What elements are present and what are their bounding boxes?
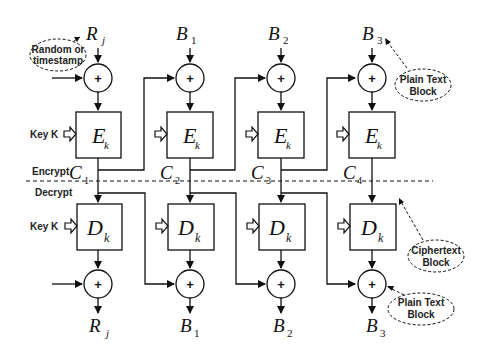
input-label: B bbox=[268, 23, 280, 44]
bottom-outputs: R j B 1 B 2 B 3 bbox=[88, 315, 386, 339]
svg-text:C: C bbox=[160, 162, 173, 183]
xor-icon: + bbox=[277, 71, 285, 86]
input-label: B bbox=[176, 23, 188, 44]
decrypt-block-label: D bbox=[86, 215, 103, 240]
svg-text:2: 2 bbox=[283, 34, 289, 46]
svg-text:2: 2 bbox=[287, 327, 293, 339]
output-label: B bbox=[180, 315, 192, 336]
svg-text:k: k bbox=[195, 231, 201, 245]
xor-icon: + bbox=[368, 277, 376, 292]
svg-text:k: k bbox=[378, 231, 384, 245]
svg-text:3: 3 bbox=[380, 327, 386, 339]
xor-icon: + bbox=[186, 71, 194, 86]
key-label: Key K bbox=[30, 129, 59, 140]
key-arrow-icon bbox=[247, 219, 259, 233]
key-arrow-icon bbox=[246, 127, 258, 141]
key-arrow-icon bbox=[64, 127, 76, 141]
svg-text:3: 3 bbox=[266, 175, 271, 186]
callout-arrow-icon bbox=[387, 286, 394, 291]
ciphertext-labels: C 1 C 2 C 3 C 4 bbox=[69, 162, 362, 186]
svg-text:Block: Block bbox=[422, 257, 450, 268]
random-callout-text: Random or bbox=[32, 44, 85, 55]
top-inputs: R j B 1 B 2 B 3 bbox=[85, 23, 383, 46]
plain-text-callout-bottom: Plain Text bbox=[398, 297, 445, 308]
svg-text:k: k bbox=[104, 231, 110, 245]
decrypt-block-label: D bbox=[360, 215, 377, 240]
output-label: B bbox=[366, 315, 378, 336]
key-arrow-icon bbox=[155, 127, 167, 141]
input-label: B bbox=[362, 23, 374, 44]
callout-arrow-icon bbox=[399, 198, 404, 205]
output-label: R bbox=[88, 315, 101, 336]
decrypt-label: Decrypt bbox=[35, 187, 73, 198]
svg-text:4: 4 bbox=[357, 175, 362, 186]
svg-text:k: k bbox=[286, 231, 292, 245]
key-arrow-icon bbox=[337, 127, 349, 141]
key-label: Key K bbox=[30, 221, 59, 232]
callout-arrow-icon bbox=[74, 37, 80, 42]
decrypt-block-label: D bbox=[268, 215, 285, 240]
svg-text:j: j bbox=[100, 34, 105, 46]
xor-icon: + bbox=[186, 277, 194, 292]
svg-text:j: j bbox=[104, 327, 109, 339]
svg-text:C: C bbox=[69, 162, 82, 183]
plain-text-callout-top: Plain Text bbox=[400, 74, 447, 85]
output-label: B bbox=[273, 315, 285, 336]
svg-text:timestamp: timestamp bbox=[33, 55, 83, 66]
xor-icon: + bbox=[94, 71, 102, 86]
svg-text:2: 2 bbox=[175, 175, 180, 186]
input-label: R bbox=[85, 23, 98, 44]
svg-text:3: 3 bbox=[377, 34, 383, 46]
decrypt-block-label: D bbox=[177, 215, 194, 240]
encrypt-label: Encrypt bbox=[32, 166, 70, 177]
svg-text:C: C bbox=[251, 162, 264, 183]
svg-text:Block: Block bbox=[407, 309, 435, 320]
ciphertext-callout: Ciphertext bbox=[411, 245, 461, 256]
cipher-chaining-diagram: + + + + + + + + R j B 1 B 2 B 3 E k E k … bbox=[0, 0, 487, 358]
svg-text:1: 1 bbox=[194, 327, 200, 339]
key-arrow-icon bbox=[156, 219, 168, 233]
svg-text:C: C bbox=[343, 162, 356, 183]
xor-icon: + bbox=[368, 71, 376, 86]
svg-text:1: 1 bbox=[191, 34, 197, 46]
xor-icon: + bbox=[94, 277, 102, 292]
svg-text:Block: Block bbox=[409, 86, 437, 97]
callout-arrow-icon bbox=[385, 38, 391, 45]
xor-icon: + bbox=[277, 277, 285, 292]
decrypt-blocks: D k D k D k D k bbox=[86, 215, 384, 245]
key-arrow-icon bbox=[338, 219, 350, 233]
svg-text:1: 1 bbox=[84, 175, 89, 186]
key-arrow-icon bbox=[65, 219, 77, 233]
